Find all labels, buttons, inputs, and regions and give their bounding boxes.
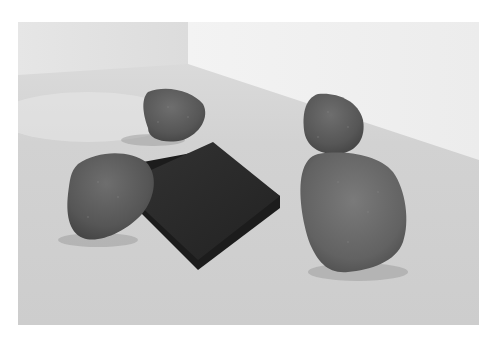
installation-photo: [18, 22, 479, 325]
stone-front-right: [300, 153, 406, 273]
photo-canvas: [18, 22, 479, 325]
